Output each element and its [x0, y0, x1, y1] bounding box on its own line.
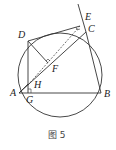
segment-bc: [86, 32, 101, 93]
label-f: F: [51, 63, 59, 74]
label-g: G: [26, 94, 33, 105]
figure-caption: 图 5: [48, 130, 66, 140]
segment-df: [28, 41, 48, 63]
label-e: E: [84, 11, 91, 22]
geometry-figure: A B C D E F G H 图 5: [0, 0, 116, 150]
right-angle-f: [46, 59, 50, 61]
label-d: D: [17, 29, 26, 40]
dashed-line-he: [28, 26, 80, 85]
label-a: A: [9, 87, 17, 98]
label-h: H: [33, 79, 42, 90]
label-c: C: [88, 23, 95, 34]
right-angle-g: [28, 89, 31, 93]
segment-de: [28, 26, 80, 41]
label-b: B: [104, 88, 110, 99]
